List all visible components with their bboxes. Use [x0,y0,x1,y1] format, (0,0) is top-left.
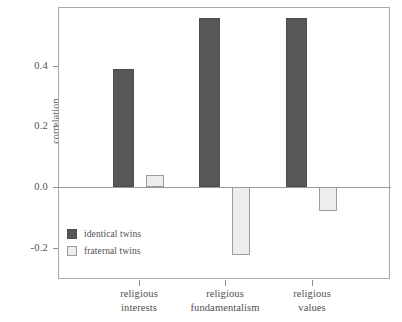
zero-baseline [59,187,391,188]
y-tick-label-0: 0.4 [14,60,48,71]
x-category-label-1-line1: religious [206,288,244,299]
legend: identical twins fraternal twins [67,226,141,260]
x-tick-mark-0 [139,280,140,286]
bar-fraternal-twins-religious-fundamentalism [232,187,250,255]
y-tick-label-2: 0.0 [14,181,48,192]
dark-swatch-icon [67,229,77,239]
legend-item-fraternal-twins: fraternal twins [67,243,141,258]
bar-chart-figure: correlation 0.4 0.2 0.0 -0.2 identical t… [0,0,402,322]
x-tick-mark-1 [225,280,226,286]
x-category-label-2-line1: religious [293,288,331,299]
y-tick-label-1: 0.2 [14,120,48,131]
bar-identical-twins-religious-values [286,18,307,187]
x-category-label-0-line1: religious [120,288,158,299]
bar-fraternal-twins-religious-values [319,187,337,211]
light-swatch-icon [67,246,77,256]
y-tick-label-3: -0.2 [14,242,48,253]
bar-identical-twins-religious-interests [113,69,134,187]
legend-label-fraternal-twins: fraternal twins [84,246,141,256]
legend-label-identical-twins: identical twins [84,229,141,239]
x-tick-mark-2 [312,280,313,286]
bar-fraternal-twins-religious-interests [146,175,164,187]
x-category-label-2: religious values [242,287,382,314]
legend-item-identical-twins: identical twins [67,226,141,241]
bar-identical-twins-religious-fundamentalism [199,18,220,187]
x-category-label-2-line2: values [242,301,382,315]
